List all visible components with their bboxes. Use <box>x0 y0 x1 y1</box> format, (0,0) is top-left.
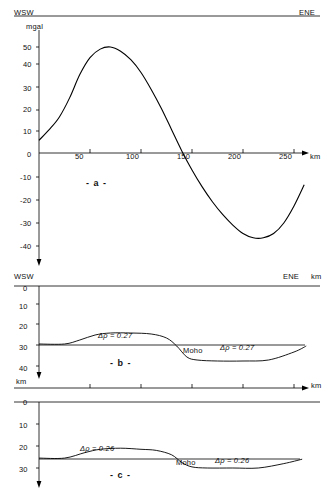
gravity-profile-figure: WSW ENE mgal 50 40 30 20 10 0 -10 -20 -3… <box>0 0 334 488</box>
panel-b-xaxis-unit: km <box>311 381 321 390</box>
panel-a-plot <box>0 0 334 270</box>
panel-b-plot <box>0 278 334 408</box>
panel-c-plot <box>0 392 334 488</box>
